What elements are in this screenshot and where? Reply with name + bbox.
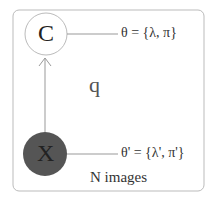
edge-label: q xyxy=(89,72,100,98)
param-x-text: θ' = {λ', π'} xyxy=(121,145,184,161)
node-x-label: X xyxy=(37,140,54,167)
node-c-label: C xyxy=(38,20,54,47)
plate-diagram xyxy=(0,0,213,197)
plate-label: N images xyxy=(90,169,147,186)
param-c-text: θ = {λ, π} xyxy=(121,25,177,41)
